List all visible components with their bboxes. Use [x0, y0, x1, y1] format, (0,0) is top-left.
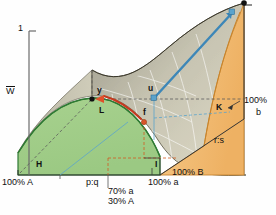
phase-diagram-svg — [0, 0, 276, 215]
marker-point-E — [241, 0, 247, 6]
base-label-100-a: 100% a — [148, 178, 179, 187]
marker-point-y — [89, 96, 94, 101]
axis-label-W: W — [6, 86, 15, 96]
point-label-f: f — [143, 108, 146, 117]
ratio-label-rs: r:s — [214, 136, 224, 145]
side-label-b: b — [256, 108, 261, 117]
base-label-100-A: 100% A — [2, 178, 33, 187]
corner-label-I: I — [155, 160, 157, 169]
mix-label-30-A: 30% A — [108, 197, 134, 206]
region-label-K: K — [216, 103, 222, 112]
ratio-label-pq: p:q — [86, 178, 99, 187]
axis-top-tick-label: 1 — [18, 24, 23, 33]
point-label-y: y — [97, 86, 102, 95]
figure-canvas: 1 W y L u f H K I r:s p:q 100% A 100% a … — [0, 0, 276, 215]
side-label-100-percent: 100% — [244, 96, 267, 105]
point-label-L: L — [99, 106, 104, 115]
base-label-100-B: 100% B — [172, 168, 204, 177]
point-label-u: u — [148, 84, 153, 93]
region-label-H: H — [36, 160, 42, 169]
